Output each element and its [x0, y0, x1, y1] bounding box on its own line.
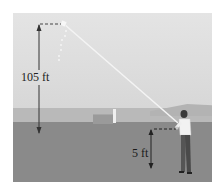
kite-height-label: 105 ft: [20, 70, 50, 85]
annotation-layer: [0, 0, 223, 195]
hand-height-label: 5 ft: [131, 146, 149, 161]
kite-string: [64, 24, 178, 123]
person-flying-kite: [175, 110, 192, 174]
